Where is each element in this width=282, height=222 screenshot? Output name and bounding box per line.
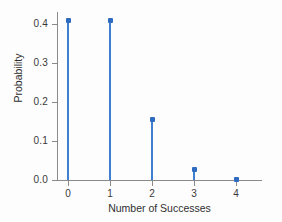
y-tick-mark: [52, 24, 57, 25]
x-tick-mark: [68, 181, 69, 186]
x-axis-line: [57, 180, 262, 181]
data-point-marker: [234, 177, 239, 182]
y-tick-label: 0.3: [22, 57, 48, 68]
x-tick-label: 2: [142, 188, 162, 199]
y-tick-label: 0.4: [22, 18, 48, 29]
x-tick-mark: [236, 181, 237, 186]
x-tick-label: 1: [100, 188, 120, 199]
y-tick-label: 0.0: [22, 174, 48, 185]
x-tick-mark: [194, 181, 195, 186]
y-tick-label: 0.1: [22, 135, 48, 146]
data-point-marker: [192, 167, 197, 172]
y-axis-title: Probability: [12, 30, 24, 126]
y-tick-mark: [52, 141, 57, 142]
x-tick-label: 4: [226, 188, 246, 199]
x-tick-mark: [152, 181, 153, 186]
chart-figure: 0.00.10.20.30.4 01234 Number of Successe…: [0, 0, 282, 222]
data-stem: [151, 120, 153, 180]
data-point-marker: [150, 117, 155, 122]
y-tick-label: 0.2: [22, 96, 48, 107]
x-tick-label: 0: [58, 188, 78, 199]
data-point-marker: [108, 18, 113, 23]
data-stem: [67, 20, 69, 180]
data-point-marker: [66, 18, 71, 23]
x-axis-title: Number of Successes: [57, 202, 262, 214]
y-tick-mark: [52, 102, 57, 103]
y-axis-line: [57, 12, 58, 181]
y-tick-mark: [52, 180, 57, 181]
data-stem: [109, 20, 111, 180]
plot-area: 0.00.10.20.30.4 01234 Number of Successe…: [0, 0, 282, 222]
y-tick-mark: [52, 63, 57, 64]
x-tick-mark: [110, 181, 111, 186]
x-tick-label: 3: [184, 188, 204, 199]
